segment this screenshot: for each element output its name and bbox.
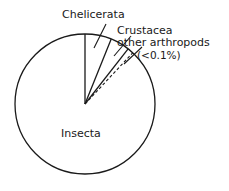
slice-label-crustacea: Crustacea	[117, 25, 173, 36]
slice-divider-other-insecta	[85, 53, 133, 104]
slice-label-insecta: Insecta	[61, 128, 101, 139]
slice-divider-chelicerata-crustacea	[85, 39, 111, 104]
slice-label-other-arthropods: other arthropods	[117, 37, 210, 48]
slice-value-other-arthropods: (<0.1%)	[137, 50, 181, 61]
leader-line-chelicerata	[94, 24, 106, 48]
arthropod-diversity-pie-chart	[0, 0, 229, 191]
slice-label-chelicerata: Chelicerata	[62, 9, 125, 20]
slice-divider-crustacea-other	[85, 49, 128, 104]
